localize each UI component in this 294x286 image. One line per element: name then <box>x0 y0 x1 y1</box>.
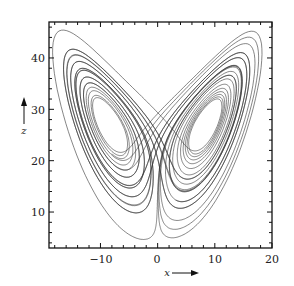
x-tick-label: 10 <box>208 253 222 266</box>
x-tick-label: 0 <box>154 253 161 266</box>
attractor-trajectory <box>53 30 262 239</box>
x-axis-label: x <box>164 267 170 278</box>
lorenz-chart: −10 0 10 20 10 20 30 40 x z <box>0 0 294 286</box>
y-tick-label: 40 <box>31 52 45 65</box>
x-arrowhead-icon <box>191 270 199 276</box>
x-tick-label: −10 <box>89 253 112 266</box>
x-tick-label: 20 <box>265 253 279 266</box>
z-axis-label: z <box>20 125 27 136</box>
y-tick-label: 10 <box>31 206 45 219</box>
y-tick-label: 20 <box>31 155 45 168</box>
z-arrowhead-icon <box>21 97 27 106</box>
y-tick-label: 30 <box>31 104 45 117</box>
